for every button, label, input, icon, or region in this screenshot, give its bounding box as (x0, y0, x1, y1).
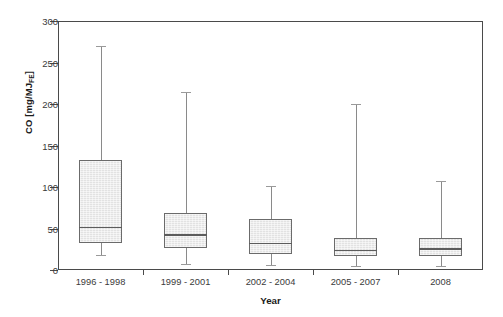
whisker-cap-upper (96, 46, 106, 47)
whisker-upper (101, 46, 102, 160)
whisker-lower (101, 243, 102, 255)
median-line (79, 227, 122, 228)
whisker-upper (271, 186, 272, 219)
whisker-upper (356, 104, 357, 238)
box-plot-chart: CO [mg/MJFE] 050100150200250300 1996 - 1… (0, 0, 503, 317)
box-iqr (419, 238, 462, 256)
median-line (419, 248, 462, 249)
x-axis-tick (313, 270, 314, 275)
median-line (164, 234, 207, 235)
x-axis-tick (228, 270, 229, 275)
y-axis-tick-label: 100 (18, 182, 58, 193)
y-axis-tick-label: 300 (18, 16, 58, 27)
whisker-cap-lower (436, 266, 446, 267)
median-line (334, 250, 377, 251)
x-axis-category-label: 1999 - 2001 (161, 277, 211, 287)
box-iqr (249, 219, 292, 254)
whisker-upper (186, 92, 187, 213)
y-axis-tick-label: 200 (18, 99, 58, 110)
x-axis-title: Year (58, 295, 483, 306)
whisker-lower (271, 254, 272, 265)
y-axis-tick-label: 0 (18, 265, 58, 276)
x-axis-category-label: 2002 - 2004 (246, 277, 296, 287)
y-axis-tick-label: 250 (18, 57, 58, 68)
box-iqr (164, 213, 207, 249)
x-axis-category-label: 2005 - 2007 (331, 277, 381, 287)
box-iqr (334, 238, 377, 255)
whisker-lower (356, 256, 357, 266)
whisker-lower (441, 256, 442, 266)
whisker-cap-upper (351, 104, 361, 105)
whisker-cap-lower (181, 264, 191, 265)
x-axis-tick (143, 270, 144, 275)
whisker-cap-lower (351, 266, 361, 267)
y-axis-title-subscript: FE (27, 74, 34, 83)
y-axis-tick-label: 150 (18, 140, 58, 151)
box-iqr (79, 160, 122, 243)
median-line (249, 243, 292, 244)
y-axis-tick-label: 50 (18, 223, 58, 234)
whisker-cap-upper (266, 186, 276, 187)
whisker-lower (186, 248, 187, 264)
whisker-cap-lower (266, 265, 276, 266)
x-axis-category-label: 2008 (430, 277, 451, 287)
whisker-cap-upper (181, 92, 191, 93)
x-axis-tick (398, 270, 399, 275)
whisker-cap-upper (436, 181, 446, 182)
whisker-upper (441, 181, 442, 237)
whisker-cap-lower (96, 255, 106, 256)
x-axis-category-label: 1996 - 1998 (76, 277, 126, 287)
